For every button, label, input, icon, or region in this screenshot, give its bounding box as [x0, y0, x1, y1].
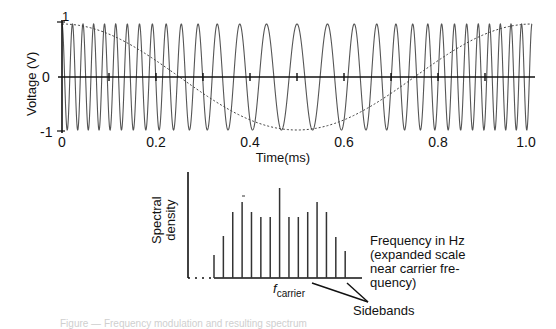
spectral-density-line-1: Spectral: [150, 196, 164, 244]
spectral-density-line-2: density: [164, 196, 178, 244]
fcarrier-subscript: carrier: [277, 288, 305, 299]
voltage-axis-label: Voltage (V): [24, 52, 39, 116]
x-tick-label: 0.8: [428, 136, 447, 149]
time-axis-label: Time(ms): [256, 150, 310, 165]
y-tick-0: 0: [42, 70, 50, 84]
fcarrier-label: fcarrier: [273, 281, 305, 299]
x-tick-label: 1.0: [516, 136, 535, 149]
x-tick-label: 0.2: [146, 136, 165, 149]
x-tick-label: 0.6: [334, 136, 353, 149]
figure-caption-faint: Figure — Frequency modulation and result…: [60, 318, 307, 329]
spectral-density-label: Spectral density: [150, 196, 178, 244]
sidebands-label: Sidebands: [353, 303, 414, 318]
frequency-axis-note: Frequency in Hz (expanded scale near car…: [370, 234, 465, 290]
x-tick-label: 0: [58, 136, 66, 149]
x-tick-label: 0.4: [240, 136, 259, 149]
y-tick-1: 1: [62, 10, 69, 24]
y-tick-minus-1: -1: [40, 125, 52, 139]
